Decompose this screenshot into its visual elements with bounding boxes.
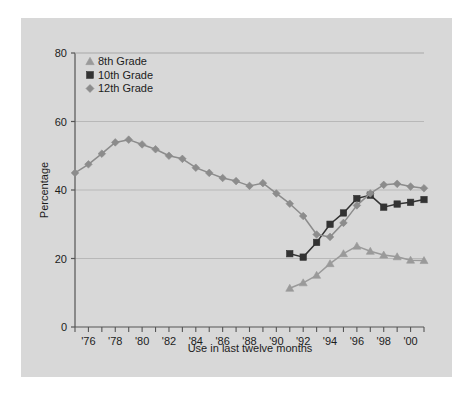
x-tick-label: '94 bbox=[323, 335, 337, 347]
y-tick-label: 80 bbox=[55, 47, 67, 59]
x-tick-label: '96 bbox=[350, 335, 364, 347]
legend-item-10th-grade: 10th Grade bbox=[87, 69, 153, 81]
legend-label: 8th Grade bbox=[98, 55, 147, 67]
series-8th-grade bbox=[286, 242, 428, 291]
x-tick-label: '98 bbox=[377, 335, 391, 347]
legend-label: 12th Grade bbox=[98, 82, 153, 94]
y-axis-label: Percentage bbox=[38, 162, 50, 218]
y-tick-label: 60 bbox=[55, 116, 67, 128]
x-axis-label: Use in last twelve months bbox=[188, 342, 313, 354]
legend-label: 10th Grade bbox=[98, 69, 153, 81]
x-tick-label: '00 bbox=[403, 335, 417, 347]
legend-item-8th-grade: 8th Grade bbox=[86, 55, 147, 67]
series-12th-grade bbox=[71, 136, 428, 241]
y-axis-ticks: 020406080 bbox=[55, 47, 75, 333]
chart-legend: 8th Grade10th Grade12th Grade bbox=[86, 55, 153, 94]
x-tick-label: '82 bbox=[162, 335, 176, 347]
y-tick-label: 0 bbox=[61, 321, 67, 333]
x-tick-label: '76 bbox=[81, 335, 95, 347]
data-series-layer bbox=[71, 136, 428, 291]
y-tick-label: 20 bbox=[55, 253, 67, 265]
x-tick-label: '78 bbox=[108, 335, 122, 347]
y-tick-label: 40 bbox=[55, 184, 67, 196]
legend-item-12th-grade: 12th Grade bbox=[86, 82, 153, 94]
line-chart: '76'78'80'82'84'86'88'90'92'94'96'98'00 … bbox=[0, 0, 472, 399]
x-tick-label: '80 bbox=[135, 335, 149, 347]
